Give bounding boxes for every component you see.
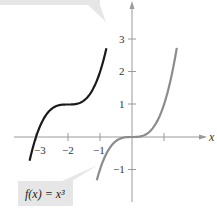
y-axis: 3 2 1 −1 <box>113 1 136 202</box>
y-tick-label: 3 <box>119 33 125 45</box>
function-graph: x −3 −2 −1 3 2 1 −1 f(x) = x³ <box>0 0 217 213</box>
x-axis-label: x <box>208 130 215 144</box>
x-axis-arrow-icon <box>199 135 207 140</box>
y-axis-arrow-icon <box>130 1 135 9</box>
function-label: f(x) = x³ <box>25 187 65 201</box>
curve-f-x-cubed <box>97 48 177 180</box>
y-tick-label: −1 <box>113 163 125 175</box>
y-tick-label: 1 <box>119 98 125 110</box>
top-callout <box>0 0 106 22</box>
y-tick-label: 2 <box>119 65 125 77</box>
x-tick-label: −2 <box>62 144 74 156</box>
x-tick-label: −3 <box>34 144 46 156</box>
function-label-callout: f(x) = x³ <box>18 165 98 206</box>
x-tick-label: −1 <box>93 144 105 156</box>
